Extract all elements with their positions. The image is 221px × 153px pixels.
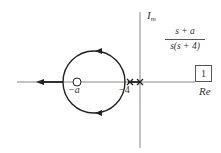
transfer-function-numerator: s + a: [165, 27, 205, 40]
zero-label: −a: [68, 85, 80, 95]
transfer-function: s + a s(s + 4): [165, 27, 205, 51]
ray-arrow-icon: [36, 79, 44, 85]
real-axis-label: Re: [199, 86, 211, 97]
transfer-function-denominator: s(s + 4): [165, 40, 205, 52]
pole-label: −4: [119, 85, 130, 95]
imaginary-axis-label-sub: m: [151, 15, 156, 23]
circle-bottom-arrow-icon: [95, 110, 102, 116]
gain-block: 1: [195, 65, 212, 82]
root-locus-diagram: [0, 0, 221, 153]
circle-top-arrow-icon: [95, 48, 102, 54]
imaginary-axis-label: Im: [147, 10, 156, 23]
